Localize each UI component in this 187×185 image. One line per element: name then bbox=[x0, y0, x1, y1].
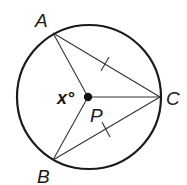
label-p: P bbox=[90, 105, 103, 126]
center-point-p bbox=[84, 93, 92, 101]
geometry-diagram: A B C P x° bbox=[0, 0, 187, 185]
label-b: B bbox=[37, 166, 50, 185]
angle-label-x: x° bbox=[56, 88, 75, 108]
label-a: A bbox=[34, 10, 48, 31]
tick-mark-bc bbox=[102, 122, 110, 137]
tick-mark-ac bbox=[101, 57, 109, 71]
label-c: C bbox=[166, 88, 180, 109]
